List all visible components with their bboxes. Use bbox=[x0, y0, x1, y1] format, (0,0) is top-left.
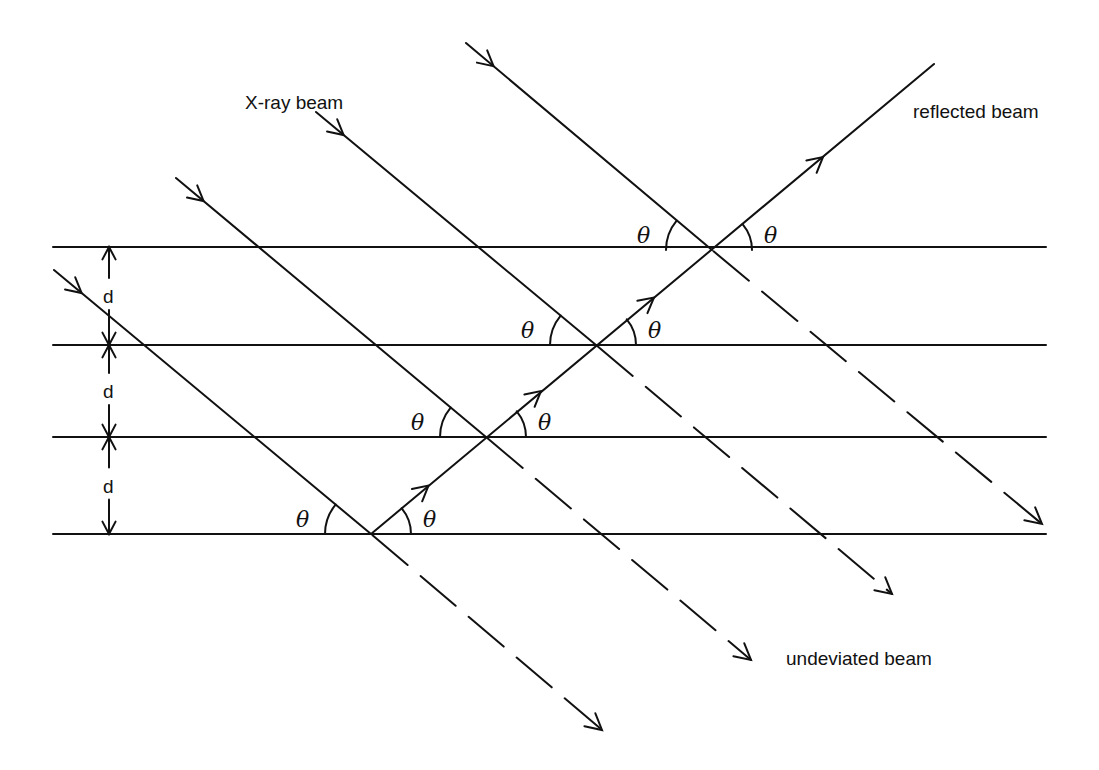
spacing-label-d: d bbox=[103, 381, 114, 402]
undeviated-ray bbox=[373, 535, 602, 730]
spacing-marker-1: d bbox=[102, 247, 115, 345]
incident-ray bbox=[466, 43, 712, 250]
xray-beam-label: X-ray beam bbox=[245, 92, 343, 113]
angle-arc-left bbox=[550, 316, 561, 345]
theta-label-right: θ bbox=[538, 410, 551, 435]
angle-arc-right bbox=[402, 508, 411, 534]
theta-label-left: θ bbox=[411, 410, 424, 435]
angle-arc-right bbox=[627, 319, 636, 345]
spacing-label-d: d bbox=[103, 286, 114, 307]
theta-label-left: θ bbox=[521, 318, 534, 343]
undeviated-beam-label: undeviated beam bbox=[786, 648, 932, 669]
incident-beam-3 bbox=[316, 112, 892, 594]
angle-arc-left bbox=[440, 408, 451, 437]
bragg-diagram: ddd θθθθθθθθ X-ray beam reflected beam u… bbox=[0, 0, 1099, 770]
theta-label-right: θ bbox=[764, 223, 777, 248]
theta-label-left: θ bbox=[296, 507, 309, 532]
angle-arc-right bbox=[517, 411, 526, 437]
theta-label-left: θ bbox=[637, 223, 650, 248]
undeviated-ray bbox=[598, 346, 892, 594]
reflected-beam-label: reflected beam bbox=[913, 101, 1039, 122]
spacing-marker-3: d bbox=[102, 437, 115, 534]
theta-label-right: θ bbox=[648, 318, 661, 343]
incident-ray bbox=[176, 178, 486, 437]
incident-ray bbox=[54, 270, 371, 534]
theta-label-right: θ bbox=[423, 507, 436, 532]
incident-beam-2 bbox=[176, 178, 751, 660]
angle-markers: θθθθθθθθ bbox=[296, 221, 777, 534]
spacing-label-d: d bbox=[103, 476, 114, 497]
undeviated-ray bbox=[714, 251, 1042, 524]
incident-ray bbox=[316, 112, 596, 345]
undeviated-ray bbox=[488, 438, 751, 660]
reflected-beam bbox=[371, 64, 934, 534]
spacing-marker-2: d bbox=[102, 345, 115, 437]
angle-arc-left bbox=[325, 505, 336, 534]
plane-spacing-markers: ddd bbox=[102, 247, 115, 534]
angle-arc-left bbox=[666, 221, 677, 250]
incident-beam-1 bbox=[54, 270, 602, 730]
